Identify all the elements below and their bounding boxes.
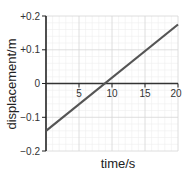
y-tick-label: −0.1 [20,112,40,123]
y-tick-label: +0.1 [20,44,40,55]
y-tick-label: +0.2 [20,11,40,22]
x-tick-label: 10 [106,88,118,99]
y-tick-label: 0 [34,78,40,89]
y-axis-label: displacement/m [4,38,19,129]
x-axis-label: time/s [101,156,136,171]
displacement-time-chart: +0.2 +0.1 0 −0.1 −0.2 5 10 15 20 time/s … [0,0,196,175]
x-tick-label: 5 [76,88,82,99]
y-tick-label: −0.2 [20,146,40,157]
x-tick-label: 15 [139,88,151,99]
x-tick-label: 20 [170,88,182,99]
